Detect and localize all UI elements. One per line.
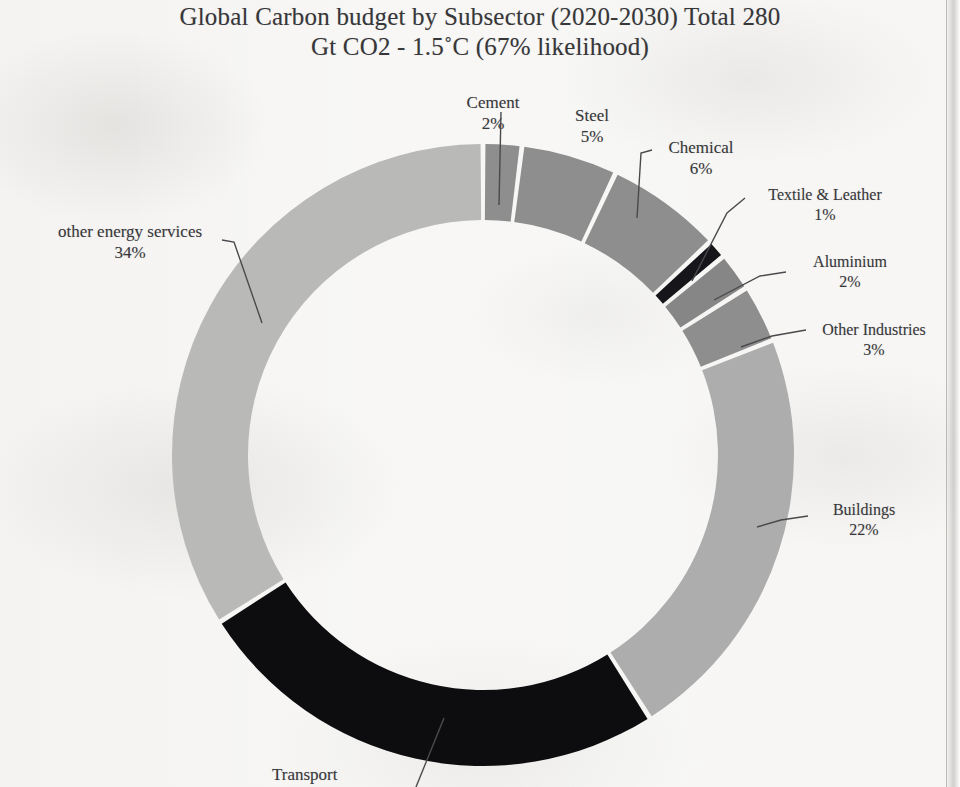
slice-label-buildings-name: Buildings: [800, 500, 928, 520]
slice-label-steel-name: Steel: [537, 105, 647, 126]
slice-label-buildings: Buildings 22%: [800, 500, 928, 540]
slice-label-chemical-name: Chemical: [636, 137, 766, 158]
donut-slice-buildings: [610, 343, 794, 716]
slice-label-cement-name: Cement: [434, 92, 552, 113]
slice-label-steel-pct: 5%: [537, 126, 647, 147]
slice-label-textile-leather-name: Textile & Leather: [745, 185, 905, 205]
slice-label-other-energy-services-name: other energy services: [30, 221, 230, 242]
slice-label-cement: Cement 2%: [434, 92, 552, 134]
slice-label-other-industries-name: Other Industries: [795, 320, 953, 340]
slice-label-aluminium-name: Aluminium: [780, 252, 920, 272]
slice-label-chemical: Chemical 6%: [636, 137, 766, 179]
slice-label-aluminium-pct: 2%: [780, 272, 920, 292]
donut-slice-other-energy-services: [172, 144, 481, 620]
slice-label-cement-pct: 2%: [434, 113, 552, 134]
slice-label-other-energy-services: other energy services 34%: [30, 221, 230, 263]
donut-slice-transport: [222, 582, 648, 766]
slice-label-steel: Steel 5%: [537, 105, 647, 147]
slice-label-chemical-pct: 6%: [636, 158, 766, 179]
slice-label-textile-leather-pct: 1%: [745, 205, 905, 225]
slice-label-transport-name: Transport: [272, 764, 422, 785]
scanned-page-background: Global Carbon budget by Subsector (2020-…: [0, 0, 960, 787]
slice-label-other-industries-pct: 3%: [795, 340, 953, 360]
slice-label-buildings-pct: 22%: [800, 520, 928, 540]
slice-label-aluminium: Aluminium 2%: [780, 252, 920, 292]
donut-slice-cement: [485, 144, 520, 222]
slice-label-transport: Transport: [272, 764, 422, 785]
donut-slice-group: [172, 144, 794, 766]
slice-label-textile-leather: Textile & Leather 1%: [745, 185, 905, 225]
slice-label-other-energy-services-pct: 34%: [30, 242, 230, 263]
slice-label-other-industries: Other Industries 3%: [795, 320, 953, 360]
